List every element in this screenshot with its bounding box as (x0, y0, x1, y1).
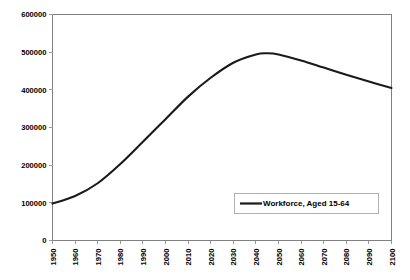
x-tick-label: 1990 (139, 249, 148, 266)
x-tick-label: 2020 (207, 249, 216, 266)
x-tick-label: 2000 (162, 249, 171, 266)
x-tick-label: 1980 (116, 249, 125, 266)
x-tick-label: 2010 (184, 249, 193, 266)
x-tick-label: 2050 (275, 249, 284, 266)
series-group (53, 53, 392, 203)
x-tick-label: 2090 (365, 249, 374, 266)
chart-container: 0100000200000300000400000500000600000 19… (0, 0, 410, 280)
x-tick-label: 2080 (342, 249, 351, 266)
workforce-line-chart: 0100000200000300000400000500000600000 19… (0, 0, 410, 280)
legend-label-workforce: Workforce, Aged 15-64 (263, 199, 350, 208)
series-line-workforce (53, 53, 392, 203)
x-tick-label: 1950 (49, 249, 58, 266)
y-tick-label: 600000 (21, 10, 46, 19)
y-tick-label: 400000 (21, 86, 46, 95)
x-axis: 1950196019701980199020002010202020302040… (49, 241, 397, 266)
x-tick-label: 1960 (71, 249, 80, 266)
chart-legend: Workforce, Aged 15-64 (235, 194, 379, 214)
y-tick-label: 0 (42, 236, 46, 245)
y-tick-label: 500000 (21, 48, 46, 57)
x-tick-label: 2030 (229, 249, 238, 266)
y-tick-label: 100000 (21, 199, 46, 208)
y-axis: 0100000200000300000400000500000600000 (21, 10, 52, 245)
x-tick-label: 2040 (252, 249, 261, 266)
y-tick-label: 200000 (21, 161, 46, 170)
y-tick-label: 300000 (21, 123, 46, 132)
x-tick-label: 1970 (94, 249, 103, 266)
x-tick-label: 2060 (297, 249, 306, 266)
x-tick-label: 2100 (388, 249, 397, 266)
x-tick-label: 2070 (320, 249, 329, 266)
